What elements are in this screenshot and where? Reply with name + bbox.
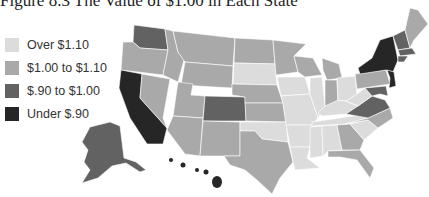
state-arizona <box>167 116 203 156</box>
legend-label: Under $.90 <box>27 107 89 121</box>
state-alaska <box>82 122 146 183</box>
state-mississippi <box>310 126 323 158</box>
state-new-mexico <box>200 121 240 156</box>
state-connecticut <box>398 56 408 62</box>
state-arkansas <box>286 125 312 147</box>
state-michigan <box>322 58 342 80</box>
state-iowa <box>277 77 310 96</box>
legend-label: Over $1.10 <box>27 38 89 52</box>
state-new-york <box>358 36 398 74</box>
state-south-dakota <box>233 63 277 85</box>
state-maine <box>405 8 428 48</box>
legend-label: $1.00 to $1.10 <box>27 61 107 75</box>
legend-item-under-0-90: Under $.90 <box>5 102 107 125</box>
legend-item-1-00-to-1-10: $1.00 to $1.10 <box>5 56 107 79</box>
legend-item-over-1-10: Over $1.10 <box>5 33 107 56</box>
legend-swatch <box>5 107 19 121</box>
state-florida <box>328 150 374 178</box>
legend-swatch <box>5 38 19 52</box>
legend-swatch <box>5 84 19 98</box>
state-hawaii <box>169 158 222 188</box>
map-legend: Over $1.10 $1.00 to $1.10 $.90 to $1.00 … <box>5 33 107 125</box>
legend-item-0-90-to-1-00: $.90 to $1.00 <box>5 79 107 102</box>
state-kansas <box>245 103 286 122</box>
state-wisconsin <box>294 56 322 77</box>
state-utah <box>173 82 205 118</box>
state-colorado <box>203 96 246 121</box>
legend-swatch <box>5 61 19 75</box>
state-north-dakota <box>234 38 275 64</box>
legend-label: $.90 to $1.00 <box>27 84 100 98</box>
